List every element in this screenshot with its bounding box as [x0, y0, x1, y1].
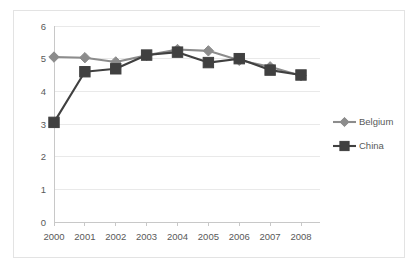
data-point-marker: [80, 52, 90, 62]
x-tick-label: 2001: [74, 231, 95, 242]
x-tick-label: 2003: [136, 231, 157, 242]
y-axis-labels: 6 5 4 3 2 1 0: [41, 21, 46, 228]
data-point-marker: [203, 46, 213, 56]
chart-figure: 6 5 4 3 2 1 0 2000 2001 2002 2003 2004 2…: [0, 0, 419, 272]
data-point-marker: [111, 64, 121, 74]
series-line-china: [54, 52, 301, 122]
x-tickmarks: [54, 222, 301, 226]
x-tick-label: 2004: [167, 231, 188, 242]
x-tick-label: 2008: [290, 231, 311, 242]
y-tick-label: 1: [41, 184, 46, 195]
legend-label: China: [359, 140, 385, 151]
line-chart-plot: 6 5 4 3 2 1 0 2000 2001 2002 2003 2004 2…: [0, 0, 419, 272]
data-point-marker: [203, 57, 213, 67]
chart-legend: BelgiumChina: [333, 116, 393, 151]
y-tick-label: 5: [41, 53, 46, 64]
data-series-layer: [49, 44, 306, 127]
y-tick-label: 4: [41, 86, 46, 97]
data-point-marker: [234, 53, 244, 63]
data-point-marker: [49, 52, 59, 62]
x-tick-label: 2000: [43, 231, 64, 242]
legend-label: Belgium: [359, 116, 393, 127]
y-tick-label: 0: [41, 217, 46, 228]
data-point-marker: [49, 117, 59, 127]
legend-marker-diamond-icon: [340, 117, 349, 126]
x-tick-label: 2002: [105, 231, 126, 242]
legend-marker-square-icon: [340, 141, 349, 150]
legend-entry-belgium[interactable]: Belgium: [333, 116, 393, 127]
y-tick-label: 3: [41, 119, 46, 130]
x-axis-labels: 2000 2001 2002 2003 2004 2005 2006 2007 …: [43, 231, 311, 242]
data-point-marker: [296, 70, 306, 80]
legend-entry-china[interactable]: China: [333, 140, 385, 151]
data-point-marker: [141, 50, 151, 60]
data-point-marker: [265, 65, 275, 75]
y-tick-label: 2: [41, 151, 46, 162]
y-tick-label: 6: [41, 21, 46, 32]
data-point-marker: [80, 67, 90, 77]
data-point-marker: [172, 47, 182, 57]
x-tick-label: 2007: [260, 231, 281, 242]
x-tick-label: 2005: [198, 231, 219, 242]
x-tick-label: 2006: [229, 231, 250, 242]
